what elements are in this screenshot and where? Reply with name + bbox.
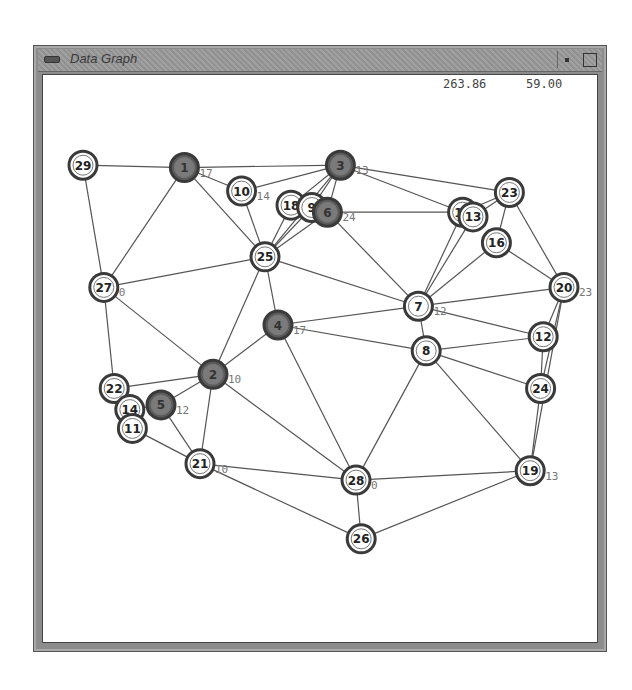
graph-svg: 2911710141896243132515132316270202371241… [43,75,597,642]
node-label: 12 [535,330,552,344]
node-label: 2 [209,368,217,382]
node-weight-label: 10 [215,463,228,476]
node-29[interactable]: 29 [69,151,97,179]
node-label: 5 [157,398,165,412]
node-label: 23 [501,186,518,200]
node-23[interactable]: 23 [495,178,523,206]
node-label: 13 [465,210,482,224]
node-16[interactable]: 16 [482,229,510,257]
maximize-button[interactable] [581,51,599,68]
node-2[interactable]: 210 [199,360,241,388]
node-label: 4 [274,319,282,333]
node-label: 8 [422,344,430,358]
node-label: 26 [353,532,370,546]
edge-25-7 [265,257,418,306]
node-4[interactable]: 417 [264,311,306,339]
node-label: 21 [192,457,209,471]
edge-13-7 [418,217,473,306]
node-weight-label: 24 [342,211,356,224]
edge-4-28 [278,325,356,480]
node-5[interactable]: 512 [147,391,189,419]
node-label: 1 [180,161,188,175]
node-11[interactable]: 11 [118,414,146,442]
edge-8-19 [426,351,530,471]
edge-8-12 [426,337,543,351]
window-menu-icon [44,56,60,63]
edge-28-19 [356,471,530,480]
node-label: 6 [323,206,331,220]
node-label: 3 [336,159,344,173]
node-label: 27 [95,281,112,295]
node-28[interactable]: 280 [342,466,378,494]
node-19[interactable]: 1913 [516,457,558,485]
title-bar[interactable]: Data Graph [38,49,602,72]
node-24[interactable]: 24 [527,374,555,402]
node-weight-label: 17 [199,167,212,180]
node-weight-label: 17 [293,324,306,337]
node-label: 10 [233,185,250,199]
node-10[interactable]: 1014 [228,177,271,205]
edge-23-20 [509,192,564,287]
node-1[interactable]: 117 [170,154,212,182]
node-20[interactable]: 2023 [550,273,592,301]
node-label: 22 [106,382,123,396]
node-26[interactable]: 26 [347,525,375,553]
node-weight-label: 23 [579,286,592,299]
edge-8-24 [426,351,540,389]
edge-1-27 [104,168,185,288]
nodes: 2911710141896243132515132316270202371241… [69,151,592,553]
node-21[interactable]: 2110 [186,450,228,478]
node-label: 29 [75,159,92,173]
data-graph-window: Data Graph 263.86 59.00 2911710141896243… [33,45,607,652]
node-label: 24 [532,382,549,396]
node-label: 25 [257,250,274,264]
window-menu-button[interactable] [42,53,62,66]
node-12[interactable]: 12 [529,323,557,351]
edge-7-20 [418,287,564,306]
edge-27-2 [104,287,213,374]
node-label: 16 [488,236,505,250]
node-label: 28 [348,474,365,488]
node-weight-label: 13 [355,164,368,177]
node-25[interactable]: 25 [251,243,279,271]
node-27[interactable]: 270 [90,273,126,301]
node-7[interactable]: 712 [404,292,446,320]
minimize-icon [565,58,569,62]
edge-8-28 [356,351,426,480]
maximize-icon [583,53,597,67]
node-weight-label: 0 [371,479,378,492]
edge-29-27 [83,165,104,287]
node-weight-label: 0 [119,286,126,299]
edge-25-27 [104,257,265,288]
node-weight-label: 10 [228,373,241,386]
node-8[interactable]: 8 [412,337,440,365]
edge-15-7 [418,212,462,306]
node-6[interactable]: 624 [313,198,356,226]
edge-25-2 [213,257,265,375]
node-label: 7 [414,300,422,314]
node-label: 11 [124,422,141,436]
edge-7-4 [278,306,418,325]
graph-canvas[interactable]: 263.86 59.00 291171014189624313251513231… [42,74,598,643]
window-title: Data Graph [70,51,137,66]
minimize-button[interactable] [557,51,576,68]
node-label: 19 [522,464,539,478]
node-label: 20 [556,281,573,295]
node-weight-label: 12 [176,404,189,417]
edge-2-28 [213,374,356,480]
node-weight-label: 13 [545,470,558,483]
node-13[interactable]: 13 [459,203,487,231]
node-3[interactable]: 313 [326,151,368,179]
node-weight-label: 14 [257,190,271,203]
edge-26-19 [361,471,530,539]
node-weight-label: 12 [433,305,446,318]
